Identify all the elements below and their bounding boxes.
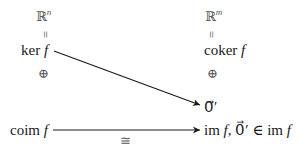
direct-sum-left: ⊕ (38, 67, 49, 80)
equals-sign-left: = (39, 31, 52, 38)
direct-sum-right: ⊕ (207, 67, 218, 80)
image-label: im f, 0⃗′ ∈ im f (204, 123, 291, 138)
domain-space-rn: ℝn (36, 8, 51, 23)
cokernel-label: coker f (204, 43, 245, 58)
codomain-space-rm: ℝm (205, 8, 222, 23)
kernel-label: ker f (21, 43, 48, 58)
arrow-kernel-to-zero (54, 51, 200, 105)
isomorphism-label: ≅ (120, 134, 131, 145)
coimage-label: coim f (10, 123, 48, 138)
zero-vector-label: 0⃗′ (204, 100, 217, 115)
equals-sign-right: = (205, 31, 218, 38)
